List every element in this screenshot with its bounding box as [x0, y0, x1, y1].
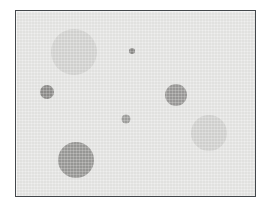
bubble-marker: [40, 85, 54, 99]
image-panel: [15, 10, 256, 197]
bubble-marker: [129, 48, 135, 54]
screenshot-stage: [0, 0, 271, 213]
bubble-layer: [40, 29, 227, 178]
bubble-marker: [191, 115, 227, 151]
bubble-scatter-plot: [16, 11, 256, 197]
bubble-marker: [51, 29, 97, 75]
bubble-marker: [165, 84, 187, 106]
bubble-marker: [122, 115, 131, 124]
bubble-marker: [58, 142, 94, 178]
